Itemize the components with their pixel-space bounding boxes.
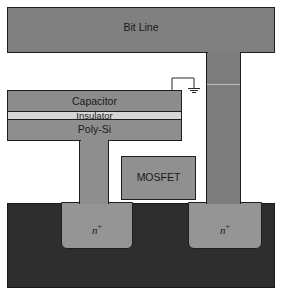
- ground-icon: [0, 0, 281, 294]
